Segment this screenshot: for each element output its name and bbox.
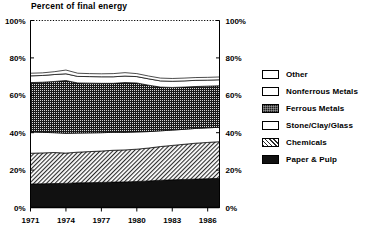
legend-item: Ferrous Metals	[262, 100, 374, 116]
y-axis-tick-label-right: 80%	[226, 54, 242, 63]
legend-item: Nonferrous Metals	[262, 83, 374, 99]
x-axis-tick-label: 1986	[199, 216, 217, 225]
legend-item: Other	[262, 66, 374, 82]
legend-item: Chemicals	[262, 134, 374, 150]
x-axis-tick-label: 1971	[22, 216, 40, 225]
legend-label: Ferrous Metals	[286, 104, 344, 113]
legend-item: Paper & Pulp	[262, 151, 374, 167]
legend-swatch-chemicals	[262, 138, 279, 147]
legend-item: Stone/Clay/Glass	[262, 117, 374, 133]
legend-label: Nonferrous Metals	[286, 87, 358, 96]
y-axis-tick-label-right: 100%	[226, 17, 246, 26]
area-band-ferrous-metals	[31, 81, 220, 134]
y-axis-tick-label-left: 60%	[9, 91, 25, 100]
y-axis-tick-label-left: 0%	[14, 204, 26, 213]
x-axis-tick-label: 1983	[163, 216, 181, 225]
y-axis-tick-label-left: 80%	[9, 54, 25, 63]
y-axis-tick-label-right: 40%	[226, 129, 242, 138]
legend-swatch-stone-clay-glass	[262, 121, 279, 130]
x-axis-tick-label: 1977	[92, 216, 110, 225]
y-axis-tick-label-right: 60%	[226, 91, 242, 100]
legend-swatch-paper-pulp	[262, 155, 279, 164]
y-axis-tick-label-left: 20%	[9, 166, 25, 175]
legend-swatch-ferrous-metals	[262, 104, 279, 113]
y-axis-tick-label-right: 0%	[226, 204, 238, 213]
legend-label: Paper & Pulp	[286, 155, 337, 164]
legend-label: Other	[286, 70, 308, 79]
y-axis-tick-label-left: 40%	[9, 129, 25, 138]
x-axis-tick-label: 1980	[128, 216, 146, 225]
legend-swatch-nonferrous-metals	[262, 87, 279, 96]
chart-legend: Other Nonferrous Metals Ferrous Metals S…	[262, 66, 374, 168]
legend-label: Stone/Clay/Glass	[286, 121, 353, 130]
legend-label: Chemicals	[286, 138, 327, 147]
chart-figure: Percent of final energy 0%0%20%20%40%40%…	[0, 0, 374, 236]
y-axis-tick-label-left: 100%	[5, 17, 25, 26]
y-axis-tick-label-right: 20%	[226, 166, 242, 175]
x-axis-tick-label: 1974	[57, 216, 75, 225]
legend-swatch-other	[262, 70, 279, 79]
